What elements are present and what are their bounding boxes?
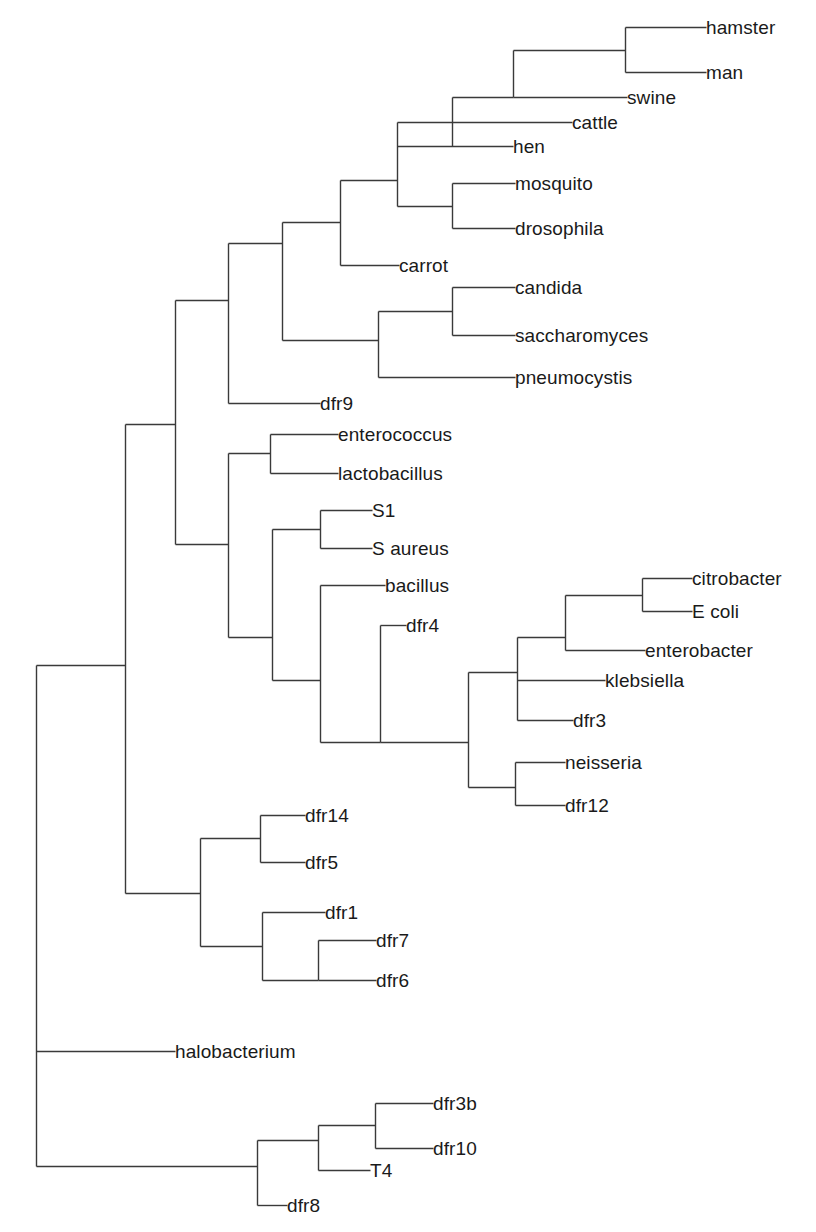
- leaf-label-dfr9: dfr9: [320, 394, 353, 413]
- leaf-label-dfr3b: dfr3b: [433, 1094, 477, 1113]
- leaf-label-bacillus: bacillus: [385, 576, 449, 595]
- leaf-label-dfr12: dfr12: [565, 796, 609, 815]
- leaf-label-dfr4: dfr4: [406, 616, 439, 635]
- leaf-label-halobacterium: halobacterium: [175, 1042, 296, 1061]
- leaf-label-citrobacter: citrobacter: [692, 569, 782, 588]
- leaf-label-enterococcus: enterococcus: [338, 425, 452, 444]
- leaf-label-cattle: cattle: [572, 113, 618, 132]
- leaf-label-drosophila: drosophila: [515, 219, 604, 238]
- branch-group: [37, 28, 707, 1206]
- leaf-label-candida: candida: [515, 278, 582, 297]
- leaf-label-pneumocystis: pneumocystis: [515, 368, 632, 387]
- leaf-label-saccharomyces: saccharomyces: [515, 326, 648, 345]
- leaf-label-T4: T4: [370, 1161, 392, 1180]
- leaf-label-dfr6: dfr6: [376, 971, 409, 990]
- leaf-label-hamster: hamster: [706, 18, 775, 37]
- leaf-label-dfr1: dfr1: [325, 903, 358, 922]
- leaf-label-dfr3: dfr3: [573, 711, 606, 730]
- leaf-label-dfr8: dfr8: [287, 1196, 320, 1215]
- leaf-label-dfr10: dfr10: [433, 1139, 477, 1158]
- leaf-label-dfr14: dfr14: [305, 806, 349, 825]
- leaf-label-S_aureus: S aureus: [372, 539, 449, 558]
- leaf-label-klebsiella: klebsiella: [605, 671, 684, 690]
- leaf-label-S1: S1: [372, 501, 395, 520]
- leaf-label-hen: hen: [513, 137, 545, 156]
- leaf-label-lactobacillus: lactobacillus: [338, 464, 443, 483]
- phylogenetic-tree-figure: hamstermanswinecattlehenmosquitodrosophi…: [0, 0, 816, 1232]
- leaf-label-mosquito: mosquito: [515, 174, 593, 193]
- leaf-label-E_coli: E coli: [692, 602, 739, 621]
- leaf-label-dfr5: dfr5: [305, 853, 338, 872]
- leaf-label-swine: swine: [627, 88, 676, 107]
- leaf-label-dfr7: dfr7: [376, 931, 409, 950]
- leaf-label-neisseria: neisseria: [565, 753, 642, 772]
- leaf-label-man: man: [706, 63, 743, 82]
- leaf-label-carrot: carrot: [399, 256, 448, 275]
- leaf-label-enterobacter: enterobacter: [645, 641, 753, 660]
